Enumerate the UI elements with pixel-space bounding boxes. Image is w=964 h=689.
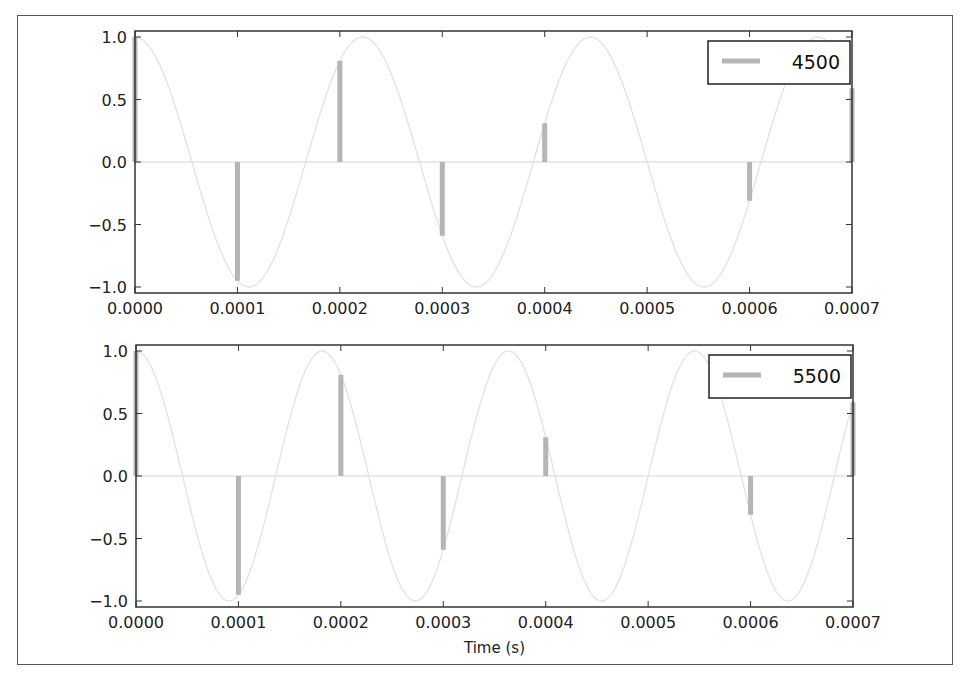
x-tick-label: 0.0007 — [825, 613, 881, 632]
x-tick-label: 0.0004 — [517, 299, 573, 318]
y-tick-label: 0.5 — [103, 405, 128, 424]
x-tick-label: 0.0002 — [313, 613, 369, 632]
x-tick-label: 0.0005 — [619, 299, 675, 318]
x-tick-label: 0.0000 — [107, 299, 163, 318]
subplot-2: 0.00000.00010.00020.00030.00040.00050.00… — [89, 342, 881, 657]
x-tick-label: 0.0004 — [518, 613, 574, 632]
y-tick-label: −1.0 — [88, 278, 127, 297]
subplot-1: 0.00000.00010.00020.00030.00040.00050.00… — [88, 28, 880, 318]
y-tick-label: 0.0 — [103, 467, 128, 486]
y-tick-label: 0.0 — [102, 153, 127, 172]
x-axis-label: Time (s) — [463, 639, 525, 657]
legend: 4500 — [708, 41, 850, 84]
y-tick-label: −1.0 — [89, 592, 128, 611]
figure: 0.00000.00010.00020.00030.00040.00050.00… — [0, 0, 964, 689]
x-tick-label: 0.0003 — [415, 613, 471, 632]
x-tick-label: 0.0006 — [723, 613, 779, 632]
x-tick-label: 0.0006 — [722, 299, 778, 318]
y-tick-label: −0.5 — [88, 216, 127, 235]
y-tick-label: 1.0 — [102, 28, 127, 47]
x-tick-label: 0.0003 — [414, 299, 470, 318]
legend-label: 5500 — [793, 365, 841, 387]
y-tick-label: 1.0 — [103, 342, 128, 361]
y-tick-label: 0.5 — [102, 91, 127, 110]
y-tick-label: −0.5 — [89, 530, 128, 549]
x-tick-label: 0.0007 — [824, 299, 880, 318]
x-tick-label: 0.0005 — [620, 613, 676, 632]
x-tick-label: 0.0000 — [108, 613, 164, 632]
x-tick-label: 0.0002 — [312, 299, 368, 318]
legend: 5500 — [709, 355, 851, 398]
x-tick-label: 0.0001 — [210, 613, 266, 632]
legend-label: 4500 — [792, 51, 840, 73]
x-tick-label: 0.0001 — [209, 299, 265, 318]
